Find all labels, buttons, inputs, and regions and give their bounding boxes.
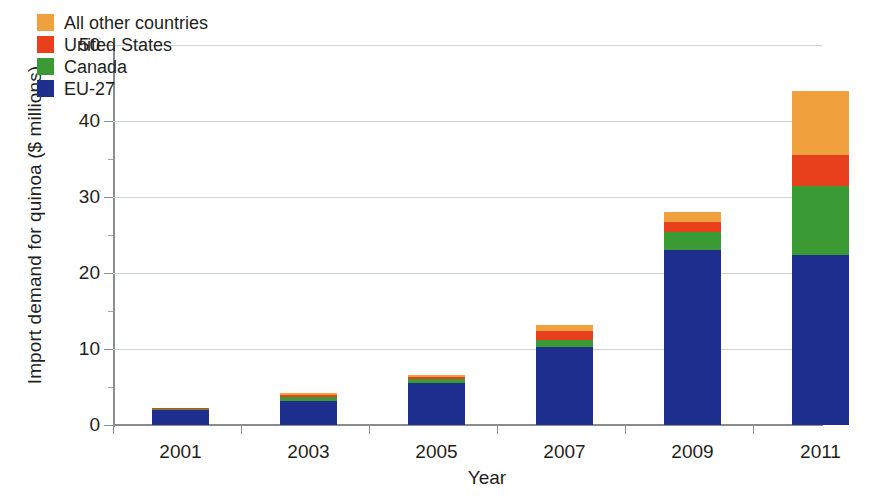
bar-segment[interactable] [536, 347, 593, 425]
bar-stack[interactable] [280, 45, 337, 425]
bar-segment[interactable] [536, 325, 593, 331]
bar-stack[interactable] [408, 45, 465, 425]
x-tick-mark [241, 425, 242, 434]
bar-segment[interactable] [152, 408, 209, 410]
x-tick-mark [625, 425, 626, 434]
x-axis-title: Year [152, 467, 822, 489]
bar-segment[interactable] [152, 409, 209, 410]
bar-segment[interactable] [792, 91, 849, 156]
y-tick-mark-minor [108, 159, 113, 160]
y-tick-label: 30 [79, 186, 100, 208]
x-tick-label: 2009 [671, 441, 713, 463]
legend-color-swatch [37, 58, 54, 75]
x-tick-mark [497, 425, 498, 434]
y-tick-mark [104, 121, 113, 122]
plot-area: 01020304050 200120032005200720092011 [113, 45, 822, 425]
bar-stack[interactable] [152, 45, 209, 425]
legend-item-label: Canada [64, 58, 127, 76]
y-tick-mark [104, 349, 113, 350]
bar-segment[interactable] [152, 410, 209, 425]
x-tick-mark [113, 425, 114, 434]
y-tick-mark [104, 197, 113, 198]
bar-segment[interactable] [280, 395, 337, 397]
x-tick-label: 2001 [159, 441, 201, 463]
y-tick-mark [104, 273, 113, 274]
legend-item-label: EU-27 [64, 80, 115, 98]
bar-segment[interactable] [536, 331, 593, 340]
legend-item[interactable]: All other countries [37, 12, 208, 33]
bar-segment[interactable] [280, 401, 337, 425]
chart-legend: All other countriesUnited StatesCanadaEU… [37, 12, 208, 100]
y-tick-mark-minor [108, 387, 113, 388]
legend-item-label: All other countries [64, 14, 208, 32]
bar-stack[interactable] [536, 45, 593, 425]
bar-segment[interactable] [792, 186, 849, 255]
y-tick-label: 40 [79, 110, 100, 132]
legend-color-swatch [37, 80, 54, 97]
legend-item-label: United States [64, 36, 172, 54]
bar-segment[interactable] [408, 375, 465, 377]
bar-segment[interactable] [408, 377, 465, 379]
legend-item[interactable]: Canada [37, 56, 208, 77]
bar-segment[interactable] [664, 222, 721, 232]
y-tick-mark-minor [108, 235, 113, 236]
x-tick-label: 2003 [287, 441, 329, 463]
y-tick-label: 0 [89, 414, 100, 436]
bar-segment[interactable] [664, 250, 721, 425]
bar-segment[interactable] [792, 155, 849, 185]
legend-color-swatch [37, 14, 54, 31]
y-tick-label: 20 [79, 262, 100, 284]
bar-segment[interactable] [792, 255, 849, 425]
legend-item[interactable]: United States [37, 34, 208, 55]
legend-item[interactable]: EU-27 [37, 78, 208, 99]
y-tick-mark-minor [108, 311, 113, 312]
bar-stack[interactable] [792, 45, 849, 425]
bar-segment[interactable] [536, 340, 593, 347]
bar-segment[interactable] [408, 383, 465, 425]
x-tick-label: 2011 [800, 441, 841, 463]
x-tick-label: 2007 [543, 441, 585, 463]
bar-segment[interactable] [280, 393, 337, 395]
x-tick-mark [369, 425, 370, 434]
y-tick-label: 10 [79, 338, 100, 360]
x-tick-label: 2005 [415, 441, 457, 463]
x-tick-mark [753, 425, 754, 434]
bar-stack[interactable] [664, 45, 721, 425]
bar-segment[interactable] [280, 397, 337, 401]
quinoa-import-demand-chart: Import demand for quinoa ($ millions) Ye… [0, 0, 879, 504]
bar-segment[interactable] [408, 379, 465, 383]
bar-segment[interactable] [664, 232, 721, 250]
legend-color-swatch [37, 36, 54, 53]
y-tick-mark [104, 425, 113, 426]
bar-segment[interactable] [664, 212, 721, 222]
